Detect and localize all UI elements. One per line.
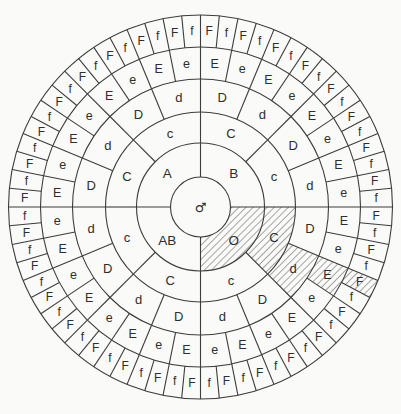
ring-4-cell-13-label: e xyxy=(265,327,272,341)
sector-divider-line xyxy=(262,355,274,385)
ring-5-cell-52-label: F xyxy=(38,125,45,139)
ring-4-cell-15-label: e xyxy=(211,343,218,357)
ring-4-cell-26-label: E xyxy=(69,132,77,146)
ring-5-cell-15-label: f xyxy=(375,191,379,205)
ring-1-cell-3-label: A xyxy=(163,166,172,181)
sector-divider-line xyxy=(232,19,238,50)
ring-5-cell-57-label: f xyxy=(94,59,98,73)
ring-5-cell-21-label: f xyxy=(350,290,354,304)
ring-4-cell-18-label: E xyxy=(128,327,136,341)
ring-5-cell-39-label: f xyxy=(81,330,85,344)
ring-3-cell-8-label: D xyxy=(174,309,183,324)
sector-divider-line xyxy=(237,295,250,325)
ring-4-cell-20-label: E xyxy=(85,291,93,305)
ring-1-cell-0-label: B xyxy=(229,166,238,181)
ring-5-cell-8-label: F xyxy=(327,82,334,96)
ring-4-cell-25-label: e xyxy=(59,158,66,172)
ring-5-cell-26-label: F xyxy=(287,351,294,365)
ring-5-cell-48-label: F xyxy=(21,191,28,205)
sector-divider-line xyxy=(112,74,130,101)
sector-divider-line xyxy=(216,16,219,48)
sector-divider-line xyxy=(145,360,154,391)
sector-divider-line xyxy=(133,140,155,162)
ring-3-cell-3-label: d xyxy=(306,178,313,193)
sector-divider-line xyxy=(152,89,165,119)
ring-3-cell-9-label: d xyxy=(135,292,142,307)
ring-4-cell-0-label: E xyxy=(210,57,218,71)
ring-4-cell-6-label: E xyxy=(334,158,342,172)
sector-divider-line xyxy=(249,59,261,89)
sector-divider-line xyxy=(53,146,83,158)
sector-divider-line xyxy=(225,50,231,81)
ring-4-cell-21-label: e xyxy=(70,268,77,282)
figure-canvas: BOABACcCcCcCcDdDdDdDdDdDdDdDdEeEeEeEeEeE… xyxy=(0,0,401,414)
sector-divider-line xyxy=(145,23,154,54)
ring-5-cell-16-label: F xyxy=(373,209,380,223)
ring-4-cell-30-label: E xyxy=(155,62,163,76)
ring-2-cell-5-label: c xyxy=(124,230,131,245)
ring-4-cell-22-label: E xyxy=(59,242,67,256)
ring-4-cell-7-label: e xyxy=(340,186,347,200)
sector-divider-line xyxy=(237,89,250,119)
ring-5-cell-31-label: f xyxy=(207,376,211,390)
sector-divider-line xyxy=(163,19,169,50)
ring-5-cell-6-label: F xyxy=(302,59,309,73)
ring-5-cell-1-label: f xyxy=(225,26,229,40)
ring-5-cell-60-label: F xyxy=(138,34,145,48)
sector-divider-line xyxy=(53,256,83,268)
sector-divider-line xyxy=(272,74,290,101)
sector-divider-line xyxy=(133,252,155,274)
ring-4-cell-1-label: e xyxy=(239,62,246,76)
ring-5-cell-56-label: F xyxy=(79,70,86,84)
ring-5-cell-54-label: F xyxy=(55,95,62,109)
ring-2-cell-6-label: C xyxy=(122,169,131,184)
ring-5-cell-42-label: F xyxy=(46,290,53,304)
ring-5-cell-50-label: F xyxy=(26,157,33,171)
ring-5-cell-9-label: f xyxy=(340,95,344,109)
ring-5-cell-41-label: f xyxy=(57,305,61,319)
ring-5-cell-18-label: F xyxy=(368,243,375,257)
ring-5-cell-24-label: F xyxy=(315,330,322,344)
ring-4-cell-4-label: E xyxy=(308,109,316,123)
ring-4-cell-27-label: e xyxy=(86,109,93,123)
ring-4-cell-14-label: E xyxy=(238,338,246,352)
ring-4-cell-19-label: e xyxy=(106,311,113,325)
ring-3-cell-11-label: d xyxy=(88,221,95,236)
ring-5-cell-17-label: f xyxy=(373,226,377,240)
ring-5-cell-2-label: F xyxy=(240,29,247,43)
ring-4-cell-24-label: E xyxy=(53,186,61,200)
sector-divider-line xyxy=(326,176,357,182)
ring-5-cell-7-label: f xyxy=(317,70,321,84)
ring-5-cell-49-label: f xyxy=(25,174,29,188)
ring-5-cell-34-label: F xyxy=(154,371,161,385)
ring-2-cell-0-label: C xyxy=(226,126,235,141)
ring-4-cell-8-label: E xyxy=(340,214,348,228)
sector-divider-line xyxy=(232,364,238,395)
ring-2-cell-3-label: c xyxy=(228,273,235,288)
ring-3-cell-7-label: d xyxy=(219,309,226,324)
ring-4-cell-17-label: e xyxy=(155,338,162,352)
ring-3-cell-1-label: d xyxy=(259,107,266,122)
ring-5-cell-40-label: F xyxy=(66,318,73,332)
ring-5-cell-32-label: F xyxy=(188,376,195,390)
sector-divider-line xyxy=(247,360,256,391)
ring-1-cell-2-label: AB xyxy=(158,233,176,248)
ring-5-cell-43-label: f xyxy=(40,275,44,289)
sector-divider-line xyxy=(288,158,318,171)
ring-3-cell-14-label: D xyxy=(134,107,143,122)
ring-5-cell-19-label: f xyxy=(365,259,369,273)
sector-divider-line xyxy=(139,325,151,355)
sector-divider-line xyxy=(169,333,175,364)
ring-5-cell-38-label: F xyxy=(92,341,99,355)
sector-divider-line xyxy=(82,158,112,171)
sector-divider-line xyxy=(326,232,357,238)
ring-3-cell-6-label: D xyxy=(258,292,267,307)
ring-5-cell-63-label: f xyxy=(190,24,194,38)
ring-3-cell-12-label: D xyxy=(86,178,95,193)
ring-5-cell-25-label: f xyxy=(304,341,308,355)
sector-divider-line xyxy=(31,116,59,131)
sector-divider-line xyxy=(216,366,219,398)
sector-divider-line xyxy=(82,243,112,256)
ring-5-cell-27-label: f xyxy=(274,359,278,373)
ring-5-cell-28-label: F xyxy=(256,366,263,380)
